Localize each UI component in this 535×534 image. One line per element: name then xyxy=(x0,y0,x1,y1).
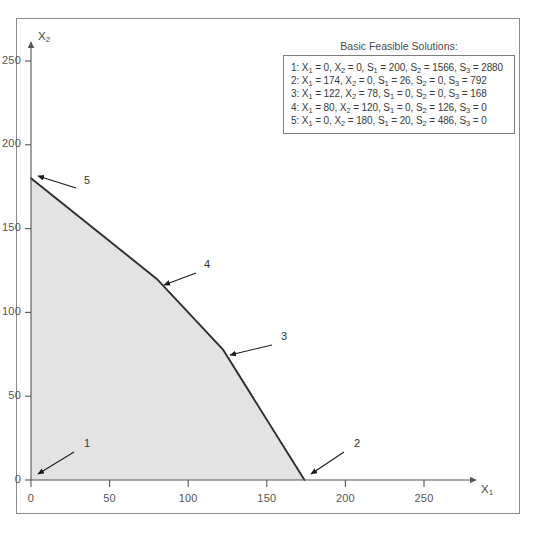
x-axis-title: X1 xyxy=(481,483,493,495)
legend-row-2-text: 2: X1 = 174, X2 = 0, S1 = 26, S2 = 0, S3… xyxy=(291,75,487,86)
x-tick-label-150: 150 xyxy=(247,492,287,504)
x-tick-label-200: 200 xyxy=(325,492,365,504)
y-tick-label-200: 200 xyxy=(0,137,21,149)
y-tick-label-0: 0 xyxy=(0,473,21,485)
x-tick-label-100: 100 xyxy=(168,492,208,504)
y-tick-label-50: 50 xyxy=(0,389,21,401)
legend-row-4-text: 4: X1 = 80, X2 = 120, S1 = 0, S2 = 126, … xyxy=(291,102,487,113)
y-tick-label-150: 150 xyxy=(0,221,21,233)
vertex-leader-4 xyxy=(164,273,196,285)
vertex-label-4: 4 xyxy=(204,258,210,270)
x-tick-label-0: 0 xyxy=(11,492,51,504)
x-tick-label-250: 250 xyxy=(404,492,444,504)
vertex-leader-5 xyxy=(38,176,76,188)
legend-row-1: 1: X1 = 0, X2 = 0, S1 = 200, S2 = 1566, … xyxy=(284,61,514,74)
legend-row-4: 4: X1 = 80, X2 = 120, S1 = 0, S2 = 126, … xyxy=(284,101,514,114)
legend-row-3-text: 3: X1 = 122, X2 = 78, S1 = 0, S2 = 0, S3… xyxy=(291,88,487,99)
vertex-label-3: 3 xyxy=(281,330,287,342)
vertex-leader-2 xyxy=(311,452,344,474)
legend-row-2: 2: X1 = 174, X2 = 0, S1 = 26, S2 = 0, S3… xyxy=(284,74,514,87)
legend-box: 1: X1 = 0, X2 = 0, S1 = 200, S2 = 1566, … xyxy=(283,55,515,134)
y-tick-label-100: 100 xyxy=(0,305,21,317)
vertex-leader-3 xyxy=(230,345,272,355)
y-tick-label-250: 250 xyxy=(0,54,21,66)
vertex-label-5: 5 xyxy=(84,174,90,186)
legend-row-5: 5: X1 = 0, X2 = 180, S1 = 20, S2 = 486, … xyxy=(284,114,514,127)
feasible-region-polygon xyxy=(31,178,305,480)
x-tick-label-50: 50 xyxy=(90,492,130,504)
figure-canvas: 0 50 100 150 200 250 0 50 100 150 200 25… xyxy=(0,0,535,534)
legend-row-3: 3: X1 = 122, X2 = 78, S1 = 0, S2 = 0, S3… xyxy=(284,87,514,100)
y-axis-title: X2 xyxy=(38,30,50,42)
legend-row-5-text: 5: X1 = 0, X2 = 180, S1 = 20, S2 = 486, … xyxy=(291,115,487,126)
legend-title: Basic Feasible Solutions: xyxy=(283,40,515,52)
vertex-label-1: 1 xyxy=(84,437,90,449)
legend-row-1-text: 1: X1 = 0, X2 = 0, S1 = 200, S2 = 1566, … xyxy=(291,62,503,73)
vertex-label-2: 2 xyxy=(354,437,360,449)
x-axis-ticks xyxy=(31,480,424,487)
y-axis-ticks xyxy=(25,61,31,480)
